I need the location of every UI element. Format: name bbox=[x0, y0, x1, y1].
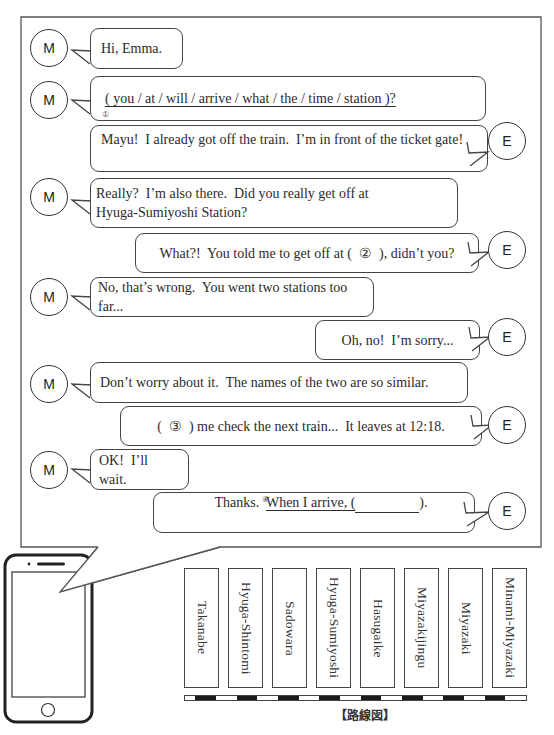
station-takanabe: Takanabe bbox=[184, 568, 219, 688]
bubble-tail bbox=[467, 240, 491, 268]
message-text: Hi, Emma. bbox=[101, 39, 162, 58]
avatar-emma: E bbox=[488, 406, 526, 444]
message-bubble: Mayu! I already got off the train. I’m i… bbox=[90, 125, 488, 172]
station-label: Hyuga-Sumiyoshi bbox=[326, 577, 342, 678]
avatar-mayu: M bbox=[30, 29, 68, 67]
message-text: Don’t worry about it. The names of the t… bbox=[100, 373, 428, 392]
underlined-phrase: When I arrive, ( bbox=[266, 495, 355, 510]
message-bubble: No, that’s wrong. You went two stations … bbox=[90, 277, 374, 317]
station-sadowara: Sadowara bbox=[272, 568, 307, 688]
avatar-mayu: M bbox=[30, 278, 68, 316]
station-minami-miyazaki: Minami-Miyazaki bbox=[492, 568, 527, 688]
message-bubble: ( you / at / will / arrive / what / the … bbox=[90, 76, 486, 121]
avatar-mayu: M bbox=[30, 365, 68, 403]
message-text: No, that’s wrong. You went two stations … bbox=[98, 278, 363, 316]
bubble-tail bbox=[463, 500, 491, 528]
message-bubble: Oh, no! I’m sorry... bbox=[315, 320, 480, 360]
blank-marker-1: ① bbox=[102, 105, 109, 124]
avatar-emma: E bbox=[488, 492, 526, 530]
station-hasugaike: Hasugaike bbox=[360, 568, 395, 688]
avatar-emma: E bbox=[488, 231, 526, 269]
railway-line bbox=[184, 695, 527, 701]
message-bubble: ( ③ ) me check the next train... It leav… bbox=[120, 406, 482, 446]
station-hyuga-shintomi: Hyuga-Shintomi bbox=[228, 568, 263, 688]
message-bubble: Hi, Emma. bbox=[90, 28, 183, 69]
avatar-emma: E bbox=[488, 122, 526, 160]
message-text-thanks: Thanks. bbox=[214, 495, 265, 510]
message-bubble: OK! I’ll wait. bbox=[90, 449, 189, 490]
avatar-mayu: M bbox=[30, 81, 68, 119]
message-text: OK! I’ll wait. bbox=[99, 451, 178, 489]
message-bubble: Really? I’m also there. Did you really g… bbox=[90, 178, 458, 228]
message-text-blank-2: What?! You told me to get off at ( ② ), … bbox=[159, 244, 454, 263]
message-bubble: What?! You told me to get off at ( ② ), … bbox=[135, 233, 479, 273]
bubble-tail bbox=[466, 140, 490, 168]
message-text: Oh, no! I’m sorry... bbox=[342, 331, 454, 350]
avatar-emma: E bbox=[488, 318, 526, 356]
station-label: Minami-Miyazaki bbox=[502, 577, 518, 678]
message-text-blank-3: ( ③ ) me check the next train... It leav… bbox=[157, 417, 444, 436]
station-hyuga-sumiyoshi: Hyuga-Sumiyoshi bbox=[316, 568, 351, 688]
station-label: Miyazaki bbox=[458, 602, 474, 655]
station-label: Miyazakijingu bbox=[414, 587, 430, 668]
blank-marker-4: ④ bbox=[262, 490, 269, 509]
avatar-mayu: M bbox=[30, 451, 68, 489]
answer-blank-4[interactable] bbox=[355, 493, 419, 513]
message-bubble: Don’t worry about it. The names of the t… bbox=[90, 362, 468, 403]
message-text-question-1: ( you / at / will / arrive / what / the … bbox=[101, 89, 396, 108]
message-text: Really? I’m also there. Did you really g… bbox=[96, 184, 406, 222]
station-label: Sadowara bbox=[282, 601, 298, 656]
message-text: Mayu! I already got off the train. I’m i… bbox=[101, 130, 463, 149]
station-label: Hyuga-Shintomi bbox=[238, 582, 254, 675]
station-label: Hasugaike bbox=[370, 599, 386, 658]
message-text-end: ). bbox=[419, 495, 427, 510]
route-map-caption: 【路線図】 bbox=[330, 706, 400, 723]
station-miyazaki: Miyazaki bbox=[448, 568, 483, 688]
station-label: Takanabe bbox=[194, 601, 210, 654]
station-miyazakijingu: Miyazakijingu bbox=[404, 568, 439, 688]
message-text-question-4: Thanks. When I arrive, ( ). ④ bbox=[200, 474, 427, 551]
avatar-mayu: M bbox=[30, 178, 68, 216]
message-bubble: Thanks. When I arrive, ( ). ④ bbox=[153, 492, 475, 533]
